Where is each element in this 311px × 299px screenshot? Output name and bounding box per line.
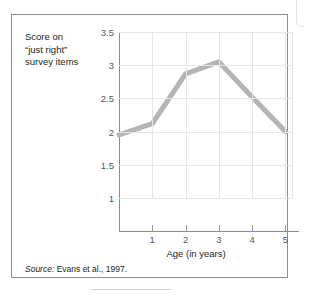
source-citation: Evans et al., 1997. [54,264,127,274]
x-axis-line [119,231,299,232]
scan-artifact-bottom [90,289,172,290]
x-tick-mark [186,225,187,232]
y-tick-label: 2.5 [101,93,114,104]
x-tick-mark [219,225,220,232]
series-line-chart [119,32,292,198]
y-tick-label: 2 [109,126,114,137]
x-tick-label: 3 [216,234,221,245]
gridline-vertical [292,32,293,198]
gridline-vertical [252,32,253,198]
gridline-vertical [186,32,187,198]
y-tick-label: 1 [109,193,114,204]
x-tick-label: 5 [283,234,288,245]
gridline-vertical [219,32,220,198]
x-tick-label: 1 [150,234,155,245]
gridline-vertical [285,32,286,198]
x-tick-mark [252,225,253,232]
y-axis-caption: Score on “just right” survey items [25,31,99,69]
x-axis-title: Age (in years) [100,248,292,259]
gridline-horizontal [119,198,292,199]
source-note: Source: Evans et al., 1997. [25,264,127,274]
plot-area: 3.532.521.51 [119,32,292,198]
y-tick-label: 3.5 [101,27,114,38]
y-tick-label: 1.5 [101,159,114,170]
x-tick-mark [152,225,153,232]
gridline-horizontal [119,132,292,133]
x-tick-label: 4 [249,234,254,245]
x-tick-label: 2 [183,234,188,245]
gridline-horizontal [119,98,292,99]
source-keyword: Source: [25,264,54,274]
gridline-vertical [152,32,153,198]
gridline-horizontal [119,165,292,166]
figure-container: Score on “just right” survey items 3.532… [11,14,288,278]
gridline-horizontal [119,65,292,66]
scan-artifact-top-right [296,0,304,27]
y-tick-label: 3 [109,60,114,71]
x-tick-mark [285,225,286,232]
gridline-horizontal [119,32,292,33]
plot-wrapper: 3.532.521.51 12345 [100,32,292,231]
